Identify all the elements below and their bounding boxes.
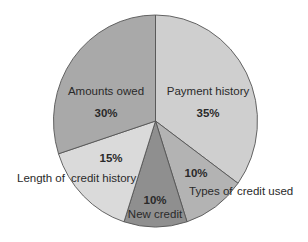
label-types-of-credit-used-a: Types of	[189, 185, 233, 197]
label-new-credit: New credit	[128, 208, 183, 220]
label-length-of-credit-history-b: credit history	[71, 172, 136, 184]
pct-length-of-credit-history: 15%	[99, 152, 122, 164]
pct-amounts-owed: 30%	[94, 107, 117, 119]
label-payment-history: Payment history	[167, 85, 250, 97]
label-length-of-credit-history-a: Length of	[17, 172, 66, 184]
pct-new-credit: 10%	[143, 194, 166, 206]
label-amounts-owed: Amounts owed	[68, 85, 144, 97]
pct-types-of-credit-used: 10%	[184, 167, 207, 179]
label-types-of-credit-used-b: credit used	[237, 185, 293, 197]
credit-score-pie-chart: Amounts owed 30% Payment history 35% 15%…	[0, 0, 308, 242]
pct-payment-history: 35%	[196, 107, 219, 119]
